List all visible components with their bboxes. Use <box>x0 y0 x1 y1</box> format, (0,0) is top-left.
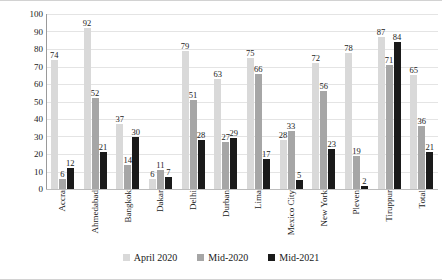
bar: 33 <box>288 131 295 189</box>
chart-legend: April 2020Mid-2020Mid-2021 <box>0 252 442 263</box>
legend-item[interactable]: Mid-2020 <box>197 252 248 263</box>
x-axis-label-cell: Ahmedabad <box>79 190 112 248</box>
bar-rect <box>426 152 433 189</box>
legend-item[interactable]: Mid-2021 <box>268 252 319 263</box>
x-axis-label-cell: Bangkok <box>111 190 144 248</box>
bar-rect <box>132 137 139 190</box>
bar: 19 <box>353 156 360 189</box>
bar-value-label: 75 <box>246 48 255 58</box>
y-axis-tick-label: 30 <box>34 132 43 142</box>
bar-rect <box>230 138 237 189</box>
y-axis-tick-label: 60 <box>34 79 43 89</box>
y-axis-tick-label: 10 <box>34 167 43 177</box>
bar-rect <box>378 37 385 189</box>
bar-chart: Percentage not able to work 100908070605… <box>0 0 442 280</box>
bar-value-label: 21 <box>99 142 108 152</box>
bar: 28 <box>280 140 287 189</box>
bar-value-label: 28 <box>197 130 206 140</box>
bar-value-label: 7 <box>166 167 170 177</box>
y-axis-tick-label: 0 <box>39 184 44 194</box>
bar-group: 925221 <box>79 14 112 189</box>
bar-value-label: 30 <box>131 127 140 137</box>
bar-value-label: 74 <box>50 50 59 60</box>
bar: 79 <box>182 51 189 189</box>
bar: 36 <box>418 126 425 189</box>
x-axis-labels: AccraAhmedabadBangkokDakarDelhiDurbanLim… <box>46 190 438 248</box>
x-axis-label: Lima <box>253 190 263 209</box>
bar-rect <box>320 91 327 189</box>
bar-value-label: 92 <box>83 18 92 28</box>
bar: 17 <box>263 159 270 189</box>
bar: 66 <box>255 74 262 190</box>
bar: 29 <box>230 138 237 189</box>
bar-rect <box>394 42 401 189</box>
bar-rect <box>418 126 425 189</box>
bar-group: 877184 <box>373 14 406 189</box>
x-axis-label-cell: Mexico City <box>275 190 308 248</box>
bar-group: 78192 <box>340 14 373 189</box>
bar-value-label: 21 <box>425 142 434 152</box>
bar: 92 <box>84 28 91 189</box>
bar: 72 <box>312 63 319 189</box>
x-axis-label: Mexico City <box>286 190 296 235</box>
bar-group: 725623 <box>307 14 340 189</box>
bar-rect <box>296 180 303 189</box>
legend-item[interactable]: April 2020 <box>123 252 178 263</box>
bar: 65 <box>410 75 417 189</box>
bar: 52 <box>92 98 99 189</box>
bar-value-label: 14 <box>123 155 132 165</box>
bar: 6 <box>59 179 66 190</box>
bar-groups: 7461292522137143061177951286327297566172… <box>46 14 438 189</box>
bar-value-label: 6 <box>60 169 64 179</box>
bar-value-label: 79 <box>181 41 190 51</box>
bar-value-label: 11 <box>156 160 164 170</box>
bar-value-label: 19 <box>352 146 361 156</box>
plot-area: 1009080706050403020100 74612925221371430… <box>46 14 438 189</box>
legend-swatch <box>268 254 275 261</box>
bar-rect <box>410 75 417 189</box>
bar-group: 28335 <box>275 14 308 189</box>
bar-value-label: 12 <box>66 158 75 168</box>
bar-value-label: 6 <box>150 169 154 179</box>
x-axis-label: Delhi <box>188 190 198 210</box>
bar-value-label: 51 <box>189 90 198 100</box>
bar-rect <box>100 152 107 189</box>
bar-rect <box>247 58 254 189</box>
legend-label: Mid-2021 <box>279 252 319 263</box>
bar-value-label: 72 <box>311 53 320 63</box>
x-axis-label: Ahmedabad <box>90 190 100 233</box>
bar: 75 <box>247 58 254 189</box>
bar-value-label: 52 <box>91 88 100 98</box>
bar-value-label: 28 <box>279 130 288 140</box>
legend-label: Mid-2020 <box>208 252 248 263</box>
bar-value-label: 29 <box>229 128 238 138</box>
bar-rect <box>288 131 295 189</box>
bar-rect <box>51 60 58 190</box>
bar-value-label: 37 <box>115 114 124 124</box>
bar: 23 <box>328 149 335 189</box>
bar-rect <box>222 142 229 189</box>
x-axis-label: Pleven <box>351 190 361 215</box>
y-axis-ticks: 1009080706050403020100 <box>22 14 43 189</box>
y-axis-tick-label: 70 <box>34 62 43 72</box>
bar-rect <box>67 168 74 189</box>
bar-value-label: 56 <box>319 81 328 91</box>
bar-rect <box>149 179 156 190</box>
bar-rect <box>255 74 262 190</box>
bar-value-label: 5 <box>297 170 301 180</box>
y-axis-title: Percentage not able to work <box>2 0 16 28</box>
bar-rect <box>59 179 66 190</box>
bar-value-label: 71 <box>385 55 394 65</box>
bar-rect <box>84 28 91 189</box>
bar: 84 <box>394 42 401 189</box>
bar-value-label: 87 <box>377 27 386 37</box>
bar-rect <box>345 53 352 190</box>
bar: 6 <box>149 179 156 190</box>
bar: 63 <box>214 79 221 189</box>
bar-rect <box>353 156 360 189</box>
x-axis-label: New York <box>319 190 329 227</box>
bar: 56 <box>320 91 327 189</box>
bar-value-label: 65 <box>409 65 418 75</box>
y-axis-tick-label: 100 <box>30 9 44 19</box>
bar-group: 74612 <box>46 14 79 189</box>
